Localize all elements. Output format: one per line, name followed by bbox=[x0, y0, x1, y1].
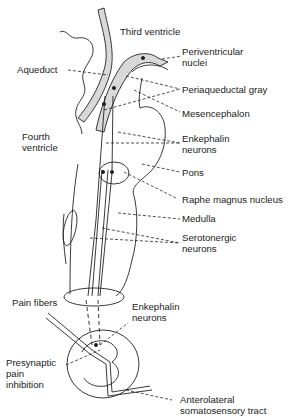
label-anterolateral-2: somatosensory tract bbox=[180, 405, 266, 416]
gray-matter-outline bbox=[82, 341, 118, 387]
label-serotonergic-neurons-1: Serotonergic bbox=[182, 232, 236, 243]
pag-neuron-2 bbox=[102, 102, 105, 105]
label-presynaptic-1: Presynaptic bbox=[6, 357, 56, 368]
label-serotonergic-neurons-2: neurons bbox=[182, 243, 217, 254]
label-periventricular-nuclei-1: Periventricular bbox=[182, 46, 243, 57]
third-ventricle-outline bbox=[60, 31, 93, 134]
raphe-neuron-1 bbox=[101, 170, 104, 173]
label-aqueduct: Aqueduct bbox=[17, 64, 58, 75]
label-medulla: Medulla bbox=[182, 213, 216, 224]
label-enkephalin-neurons-lower-2: neurons bbox=[132, 312, 167, 323]
label-pain-fibers: Pain fibers bbox=[12, 297, 57, 308]
label-third-ventricle: Third ventricle bbox=[120, 26, 180, 37]
label-fourth-ventricle-2: ventricle bbox=[22, 142, 58, 153]
label-enkephalin-neurons-upper-2: neurons bbox=[182, 144, 217, 155]
spinal-descending-fibers bbox=[86, 300, 100, 345]
label-pons: Pons bbox=[182, 167, 204, 178]
label-fourth-ventricle-1: Fourth bbox=[22, 131, 50, 142]
spinal-enkephalin-neuron bbox=[94, 343, 97, 346]
periventricular-neuron bbox=[141, 56, 144, 59]
label-enkephalin-neurons-lower-1: Enkephalin bbox=[132, 301, 179, 312]
raphe-neuron-2 bbox=[110, 170, 113, 173]
label-enkephalin-neurons-upper-1: Enkephalin bbox=[182, 133, 229, 144]
label-anterolateral-1: Anterolateral bbox=[180, 394, 234, 405]
spinal-cord-section bbox=[67, 330, 139, 398]
label-periventricular-nuclei-2: nuclei bbox=[182, 57, 207, 68]
medulla-cross-section bbox=[64, 288, 124, 306]
pag-neuron-1 bbox=[112, 86, 115, 89]
label-raphe-magnus-nucleus: Raphe magnus nucleus bbox=[182, 194, 283, 205]
label-presynaptic-3: inhibition bbox=[6, 379, 44, 390]
pain-fiber bbox=[46, 313, 152, 396]
label-mesencephalon: Mesencephalon bbox=[182, 108, 250, 119]
label-presynaptic-2: pain bbox=[6, 368, 24, 379]
label-periaqueductal-gray: Periaqueductal gray bbox=[182, 84, 267, 95]
